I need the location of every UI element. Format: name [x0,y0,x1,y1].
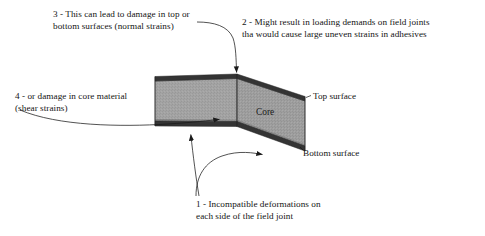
callout-3-text: 3 - This can lead to damage in top or bo… [53,8,190,33]
callout-2-text: 2 - Might result in loading demands on f… [242,16,430,41]
figure-canvas: 3 - This can lead to damage in top or bo… [0,0,485,236]
top-surface-pointer [306,96,311,98]
callout-2-line-1: 2 - Might result in loading demands on f… [242,16,430,28]
leader-line-callout-1-left [191,135,199,197]
callout-4-text: 4 - or damage in core material (shear st… [15,90,127,115]
callout-3-line-2: bottom surfaces (normal strains) [53,20,190,32]
left-core-fill [155,79,237,122]
core-label: Core [256,107,274,117]
callout-2-line-2: tha would cause large uneven strains in … [242,28,430,40]
callout-1-line-1: 1 - Incompatible deformations on [196,198,321,210]
panel-left-segment [155,74,237,127]
callout-1-text: 1 - Incompatible deformations on each si… [196,198,321,223]
callout-1-line-2: each side of the field joint [196,210,321,222]
leader-line-callout-3 [197,22,237,73]
callout-3-line-1: 3 - This can lead to damage in top or [53,8,190,20]
bottom-surface-label: Bottom surface [303,148,359,159]
callout-4-line-2: (shear strains) [15,102,127,114]
top-surface-label: Top surface [313,91,356,102]
callout-4-line-1: 4 - or damage in core material [15,90,127,102]
leader-line-callout-1-right [196,152,263,196]
